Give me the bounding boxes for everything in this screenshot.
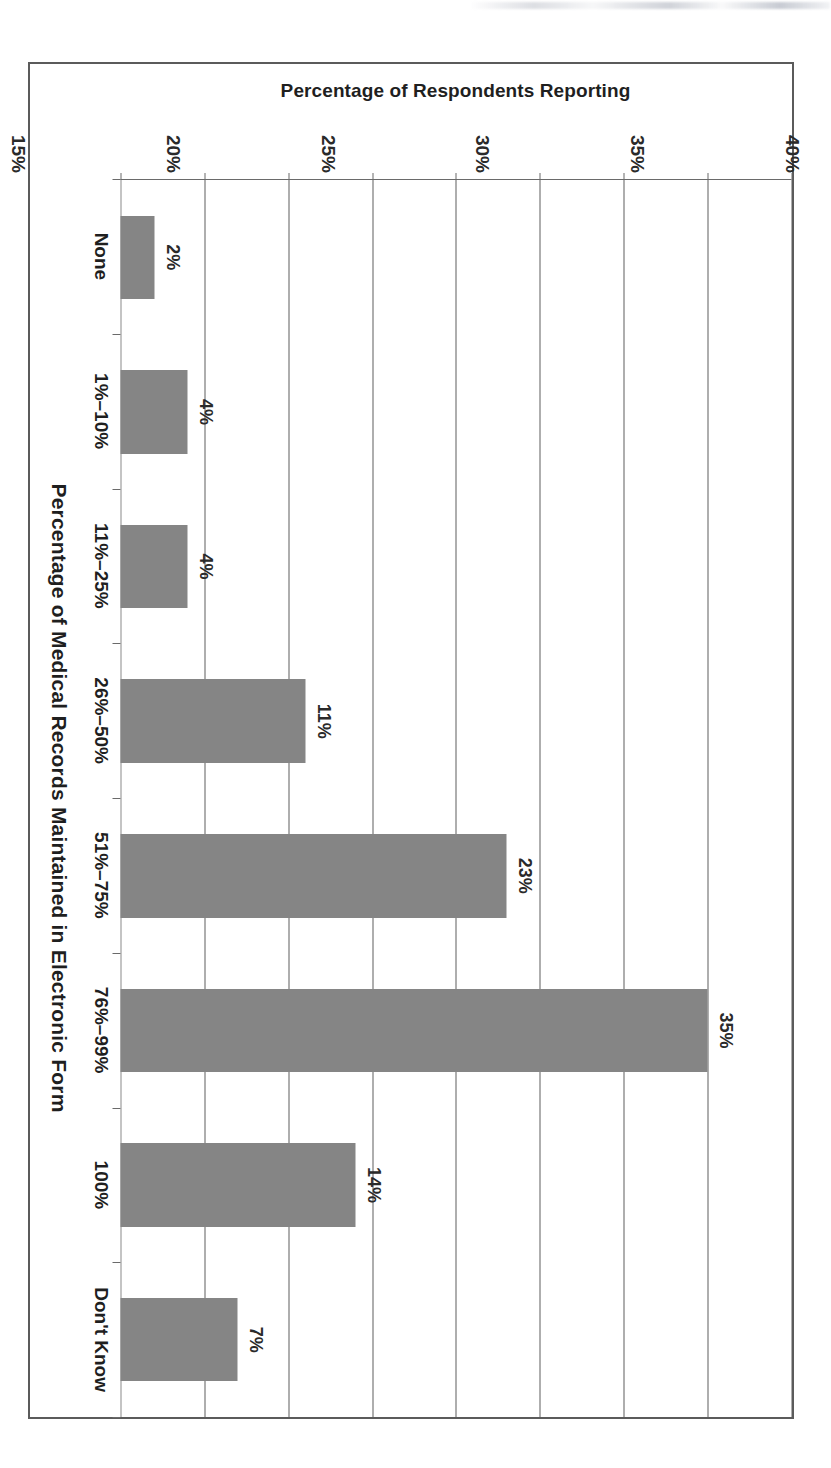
y-axis-tickmark (121, 173, 122, 180)
chart-frame: Percentage of Respondents Reporting 0%5%… (28, 62, 794, 1419)
plot-and-value-axis: Percentage of Respondents Reporting 0%5%… (121, 65, 792, 1417)
rotated-chart-stage: Percentage of Respondents Reporting 0%5%… (31, 65, 792, 1417)
bar-slot: 11% (121, 679, 792, 762)
bar-slot: 7% (121, 1297, 792, 1380)
bar-slot: 2% (121, 215, 792, 298)
bar-slot: 4% (121, 370, 792, 453)
y-axis-tickmark (456, 173, 457, 180)
x-axis-category-label: 11%–25% (90, 523, 112, 609)
bars-layer: 2%4%4%11%23%35%14%7% (121, 180, 792, 1417)
bar-chart: Percentage of Respondents Reporting 0%5%… (31, 65, 792, 1417)
bar-slot: 35% (121, 988, 792, 1071)
bar: 23% (121, 834, 507, 917)
bar-value-label: 11% (312, 703, 333, 738)
y-axis-tickmark (708, 173, 709, 180)
bar-value-label: 14% (362, 1167, 383, 1203)
x-axis-tickmark (113, 179, 121, 180)
y-axis-tick-label: 35% (626, 134, 648, 172)
bar-value-label: 2% (161, 244, 182, 270)
plot-area: 2%4%4%11%23%35%14%7% (121, 179, 792, 1417)
bar: 14% (121, 1143, 356, 1226)
y-axis-tickmark (540, 173, 541, 180)
y-axis-tick-label: 40% (781, 134, 803, 172)
x-axis-category-label: 76%–99% (90, 986, 112, 1073)
x-axis-category-labels: None1%–10%11%–25%26%–50%51%–75%76%–99%10… (87, 179, 121, 1417)
x-axis-category-label: 51%–75% (90, 832, 112, 919)
x-axis-title-text: Percentage of Medical Records Maintained… (47, 483, 71, 1112)
x-axis-category-label: 26%–50% (90, 677, 112, 764)
bar: 2% (121, 215, 155, 298)
bar: 4% (121, 524, 188, 607)
y-axis-tick-label: 30% (471, 134, 493, 172)
bar-slot: 23% (121, 834, 792, 917)
bar: 7% (121, 1297, 238, 1380)
x-axis-tickmark (113, 1417, 121, 1418)
x-axis-category-label: Don't Know (90, 1287, 112, 1392)
x-axis-category-label: 100% (90, 1160, 112, 1209)
y-axis-tickmark (792, 173, 793, 180)
x-axis-title: Percentage of Medical Records Maintained… (31, 179, 87, 1417)
y-axis-tick-labels: 0%5%10%15%20%25%30%35%40% (121, 117, 792, 179)
bar-value-label: 4% (195, 553, 216, 579)
bar: 4% (121, 370, 188, 453)
y-axis-tickmark (288, 173, 289, 180)
bar-slot: 14% (121, 1143, 792, 1226)
y-axis-tickmark (624, 173, 625, 180)
bar-value-label: 35% (715, 1012, 736, 1048)
gridline (792, 180, 793, 1417)
bar-value-label: 23% (513, 857, 534, 893)
x-axis-tickmark (113, 643, 121, 644)
y-axis-title: Percentage of Respondents Reporting (121, 65, 792, 117)
x-axis-category-label: 1%–10% (90, 373, 112, 449)
x-axis-tickmark (113, 488, 121, 489)
y-axis-tickmark (372, 173, 373, 180)
bar-value-label: 4% (195, 398, 216, 424)
x-axis-tickmark (113, 1262, 121, 1263)
y-axis-tick-label: 25% (316, 134, 338, 172)
y-axis-tickmark (204, 173, 205, 180)
bar: 35% (121, 988, 708, 1071)
x-axis-tickmark (113, 798, 121, 799)
y-axis-title-text: Percentage of Respondents Reporting (281, 80, 631, 102)
bar: 11% (121, 679, 306, 762)
y-axis-tick-label: 15% (7, 134, 29, 172)
x-axis-tickmark (113, 333, 121, 334)
scan-artifact (470, 2, 830, 9)
x-axis-tickmark (113, 1107, 121, 1108)
bar-value-label: 7% (245, 1326, 266, 1352)
bar-slot: 4% (121, 524, 792, 607)
x-axis-category-label: None (90, 232, 112, 280)
x-axis-tickmark (113, 952, 121, 953)
y-axis-tick-label: 20% (162, 134, 184, 172)
